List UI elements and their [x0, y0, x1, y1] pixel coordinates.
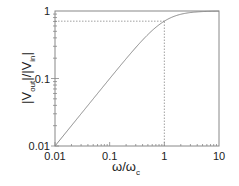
- y-tick-label: 1: [44, 5, 50, 17]
- chart: 0.010.1110 0.010.11 ω/ωc |Vout|/|Vin|: [0, 0, 239, 186]
- plot-frame: [55, 11, 219, 146]
- x-tick-label: 1: [161, 150, 167, 162]
- axis-ticks: [51, 14, 216, 146]
- x-axis-label: ω/ωc: [112, 159, 140, 177]
- response-curve: [55, 11, 219, 146]
- x-tick-label: 10: [213, 150, 225, 162]
- y-tick-label: 0.01: [29, 140, 50, 152]
